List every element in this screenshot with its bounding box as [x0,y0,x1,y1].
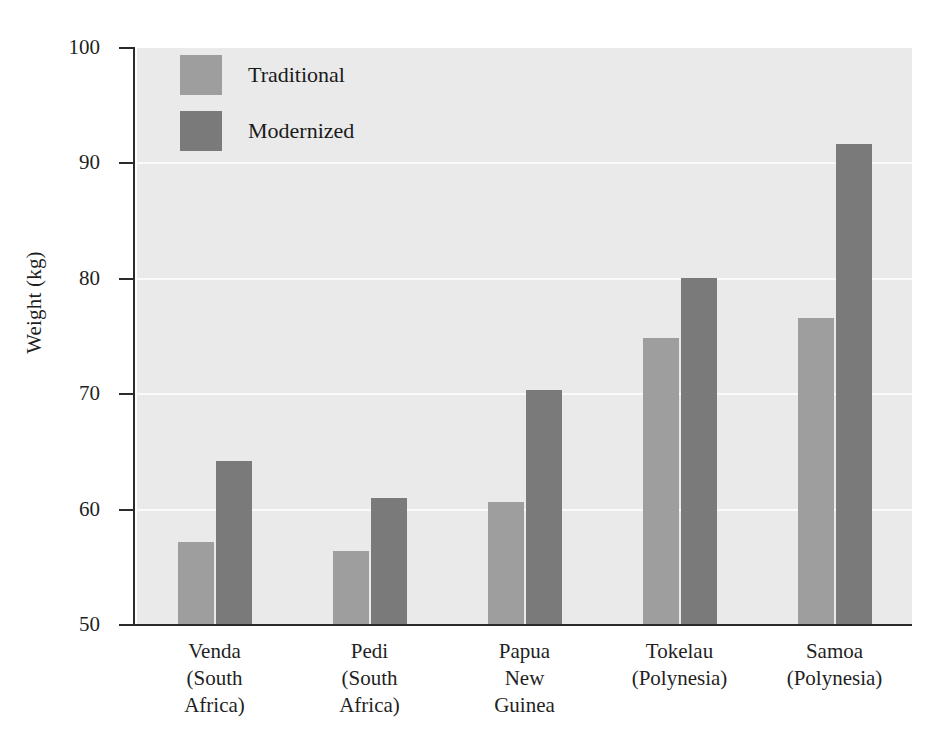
gridline-70 [137,393,912,395]
x-tick-label-0: Venda(SouthAfrica) [130,638,300,719]
y-tick-mark-60 [119,509,133,511]
x-tick-label-3: Tokelau(Polynesia) [595,638,765,692]
x-tick-label-line: Samoa [750,638,920,665]
x-axis-spine [121,624,912,626]
y-tick-label-70: 70 [52,381,100,406]
legend-label-traditional: Traditional [248,62,345,88]
x-tick-label-line: (South [130,665,300,692]
x-tick-label-line: (Polynesia) [750,665,920,692]
x-tick-label-line: Papua [440,638,610,665]
x-tick-label-line: Guinea [440,692,610,719]
y-tick-label-50: 50 [52,612,100,637]
bar-modernized-4[interactable] [836,144,872,625]
x-tick-label-line: Pedi [285,638,455,665]
bar-traditional-2[interactable] [488,502,524,625]
chart-legend: TraditionalModernized [180,55,354,167]
gridline-60 [137,509,912,511]
legend-label-modernized: Modernized [248,118,354,144]
bar-modernized-0[interactable] [216,461,252,625]
legend-swatch-traditional [180,55,222,95]
bar-traditional-4[interactable] [798,318,834,625]
y-tick-mark-100 [119,47,133,49]
x-tick-label-line: (South [285,665,455,692]
y-tick-label-80: 80 [52,266,100,291]
legend-item-modernized[interactable]: Modernized [180,111,354,151]
bar-modernized-1[interactable] [371,498,407,625]
y-axis-spine [133,47,135,626]
bar-traditional-3[interactable] [643,338,679,625]
gridline-80 [137,278,912,280]
bar-traditional-0[interactable] [178,542,214,625]
y-tick-label-60: 60 [52,497,100,522]
y-tick-mark-80 [119,278,133,280]
y-tick-mark-70 [119,393,133,395]
x-tick-label-line: Tokelau [595,638,765,665]
y-tick-label-90: 90 [52,150,100,175]
legend-item-traditional[interactable]: Traditional [180,55,354,95]
x-tick-label-line: New [440,665,610,692]
x-tick-label-2: PapuaNewGuinea [440,638,610,719]
gridline-100 [137,48,912,49]
bar-traditional-1[interactable] [333,551,369,625]
x-tick-label-line: Venda [130,638,300,665]
bar-chart-figure: Weight (kg) 5060708090100 TraditionalMod… [0,0,948,742]
bar-modernized-2[interactable] [526,390,562,625]
y-axis-title: Weight (kg) [22,203,47,403]
x-tick-label-line: Africa) [285,692,455,719]
x-tick-label-line: (Polynesia) [595,665,765,692]
bar-modernized-3[interactable] [681,278,717,625]
x-tick-label-1: Pedi(SouthAfrica) [285,638,455,719]
x-tick-label-line: Africa) [130,692,300,719]
legend-swatch-modernized [180,111,222,151]
x-tick-label-4: Samoa(Polynesia) [750,638,920,692]
y-tick-mark-90 [119,162,133,164]
y-tick-label-100: 100 [52,35,100,60]
